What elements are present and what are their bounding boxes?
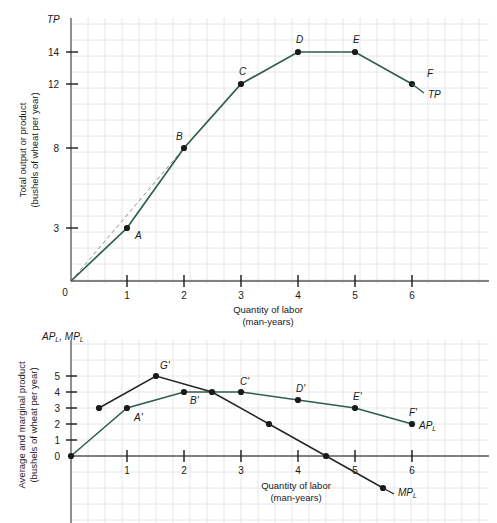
top-panel-y-tick-14: 14 xyxy=(48,47,60,58)
bottom-panel-y-tick-5: 5 xyxy=(54,371,60,382)
ap-curve-label-sub: L xyxy=(432,425,436,432)
ap-point-label-f-prime: F' xyxy=(409,407,418,418)
tp-curve-label: TP xyxy=(428,89,441,100)
ap-point-label-a-prime: A' xyxy=(133,412,144,423)
top-panel-x-tick-5: 5 xyxy=(352,290,358,301)
bottom-panel-y-tick-4: 4 xyxy=(54,387,60,398)
top-panel-y-axis-title-line2: (bushels of wheat per year) xyxy=(29,92,40,207)
corner-label-mp-sub: L xyxy=(80,336,84,343)
top-panel-x-axis-title-line2: (man-years) xyxy=(242,316,293,327)
mp-point-label-g-prime: G' xyxy=(160,360,171,371)
corner-label-ap: AP xyxy=(41,331,56,342)
top-panel-corner-label: TP xyxy=(47,14,60,25)
bottom-panel-x-axis-title-line1: Quantity of labor xyxy=(261,480,331,491)
tp-point-label-e: E xyxy=(353,34,360,45)
ap-curve-label-text: AP xyxy=(418,420,433,431)
top-panel-y-tick-12: 12 xyxy=(48,79,60,90)
bottom-panel-x-tick-2: 2 xyxy=(181,465,187,476)
bottom-panel-y-tick-3: 3 xyxy=(54,403,60,414)
tp-point-label-c: C xyxy=(239,66,247,77)
top-panel-x-axis-title-line1: Quantity of labor xyxy=(233,304,303,315)
top-panel-grid xyxy=(71,18,489,284)
top-panel-x-tick-2: 2 xyxy=(181,290,187,301)
top-panel-x-tick-1: 1 xyxy=(124,290,130,301)
ap-point-label-d-prime: D' xyxy=(296,383,306,394)
top-panel-x-tick-4: 4 xyxy=(295,290,301,301)
ap-point-label-c-prime: C' xyxy=(240,376,250,387)
bottom-panel-x-tick-3: 3 xyxy=(238,465,244,476)
bottom-panel: APL, MPL 5 4 3 2 1 0 1 2 3 4 5 6 Average… xyxy=(16,331,489,523)
economics-production-figure: TP 14 12 8 3 0 1 2 3 4 5 6 Total output … xyxy=(0,0,497,523)
bottom-panel-x-tick-6: 6 xyxy=(409,465,415,476)
top-panel-x-tick-6: 6 xyxy=(409,290,415,301)
top-panel-y-tickmarks xyxy=(66,52,78,228)
bottom-panel-y-tick-1: 1 xyxy=(54,435,60,446)
top-panel: TP 14 12 8 3 0 1 2 3 4 5 6 Total output … xyxy=(17,14,489,327)
mp-curve-label-text: MP xyxy=(398,487,413,498)
mp-curve-label: MPL xyxy=(398,487,417,499)
top-panel-y-axis-title-line1: Total output or product xyxy=(17,102,28,197)
bottom-panel-y-axis-title-line1: Average and marginal product xyxy=(16,361,27,488)
bottom-panel-x-tick-1: 1 xyxy=(124,465,130,476)
tp-point-label-a: A xyxy=(134,230,142,241)
mp-curve-tail xyxy=(383,488,394,494)
bottom-panel-y-tick-2: 2 xyxy=(54,419,60,430)
top-panel-x-tick-3: 3 xyxy=(238,290,244,301)
tp-point-label-b: B xyxy=(176,131,183,142)
bottom-panel-x-axis-title-line2: (man-years) xyxy=(270,492,321,503)
tp-point-label-d: D xyxy=(296,34,303,45)
bottom-panel-corner-label: APL, MPL xyxy=(41,331,84,343)
bottom-panel-x-tick-4: 4 xyxy=(295,465,301,476)
top-panel-y-tick-0: 0 xyxy=(62,287,68,298)
ap-point-label-e-prime: E' xyxy=(353,391,363,402)
bottom-panel-y-tick-0: 0 xyxy=(54,451,60,462)
bottom-panel-y-axis-title-line2: (bushels of wheat per year) xyxy=(28,367,39,482)
mp-curve-label-sub: L xyxy=(413,492,417,499)
tp-curve-markers xyxy=(124,49,415,231)
figure-svg: TP 14 12 8 3 0 1 2 3 4 5 6 Total output … xyxy=(0,0,497,523)
corner-label-mp: MP xyxy=(65,331,80,342)
ap-curve-label: APL xyxy=(418,420,436,432)
top-panel-y-tick-8: 8 xyxy=(53,143,59,154)
ap-point-label-b-prime: B' xyxy=(190,395,200,406)
top-panel-y-tick-3: 3 xyxy=(53,223,59,234)
tp-point-label-f: F xyxy=(427,68,434,79)
